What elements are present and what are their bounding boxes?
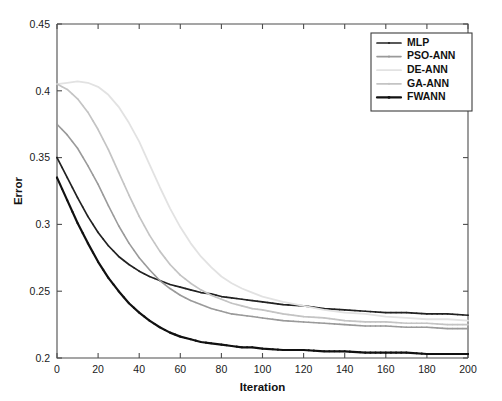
series-marker [133, 250, 135, 252]
series-marker [97, 232, 99, 234]
series-marker [221, 310, 223, 312]
series-marker [313, 350, 315, 352]
series-marker [282, 304, 284, 306]
series-marker [364, 325, 366, 327]
series-marker [56, 157, 58, 159]
series-marker [123, 260, 125, 262]
series-marker [339, 319, 341, 321]
series-marker [123, 183, 125, 185]
series-marker [113, 250, 115, 252]
series-marker [390, 352, 392, 354]
series-marker [118, 171, 120, 173]
series-marker [257, 300, 259, 302]
series-marker [277, 319, 279, 321]
series-marker [267, 348, 269, 350]
series-marker [370, 325, 372, 327]
series-marker [457, 324, 459, 326]
series-marker [128, 264, 130, 266]
series-marker [334, 323, 336, 325]
series-marker [457, 314, 459, 316]
series-marker [339, 309, 341, 311]
series-marker [144, 273, 146, 275]
series-marker [200, 341, 202, 343]
series-marker [108, 245, 110, 247]
series-marker [431, 353, 433, 355]
series-marker [344, 324, 346, 326]
series-marker [287, 304, 289, 306]
legend-label-pso-ann: PSO-ANN [407, 49, 455, 61]
series-marker [190, 282, 192, 284]
series-marker [426, 327, 428, 329]
series-marker [375, 321, 377, 323]
series-marker [56, 177, 58, 179]
series-marker [67, 134, 69, 136]
series-marker [164, 329, 166, 331]
series-marker [406, 327, 408, 329]
series-marker [174, 334, 176, 336]
series-marker [303, 321, 305, 323]
series-marker [282, 349, 284, 351]
series-marker [159, 280, 161, 282]
series-marker [308, 316, 310, 318]
series-marker [82, 156, 84, 158]
series-marker [251, 346, 253, 348]
series-marker [118, 256, 120, 258]
series-marker [462, 328, 464, 330]
series-marker [293, 321, 295, 323]
series-marker [205, 306, 207, 308]
series-marker [144, 225, 146, 227]
series-marker [349, 351, 351, 353]
series-marker [87, 165, 89, 167]
series-marker [462, 324, 464, 326]
series-marker [308, 349, 310, 351]
series-marker [267, 310, 269, 312]
series-line-de-ann [57, 81, 468, 320]
series-group [56, 81, 469, 355]
series-marker [272, 311, 274, 313]
series-marker [442, 323, 444, 325]
series-marker [210, 342, 212, 344]
series-marker [179, 336, 181, 338]
series-marker [102, 269, 104, 271]
legend-swatch-marker [388, 42, 390, 44]
legend-swatch-marker [388, 56, 390, 58]
series-marker [354, 325, 356, 327]
series-marker [323, 323, 325, 325]
series-marker [446, 353, 448, 355]
series-marker [246, 315, 248, 317]
series-marker [154, 274, 156, 276]
series-marker [138, 312, 140, 314]
x-axis-title: Iteration [240, 381, 285, 393]
series-marker [385, 352, 387, 354]
series-marker [92, 224, 94, 226]
series-marker [97, 129, 99, 131]
series-marker [251, 316, 253, 318]
series-marker [92, 174, 94, 176]
series-marker [400, 326, 402, 328]
y-tick-label: 0.25 [30, 285, 51, 297]
series-marker [226, 312, 228, 314]
series-marker [287, 320, 289, 322]
series-marker [215, 296, 217, 298]
series-marker [442, 328, 444, 330]
series-marker [241, 346, 243, 348]
series-marker [329, 323, 331, 325]
series-marker [431, 313, 433, 315]
y-tick-label: 0.2 [35, 352, 50, 364]
series-marker [344, 350, 346, 352]
legend-label-de-ann: DE-ANN [407, 63, 448, 75]
series-marker [102, 238, 104, 240]
series-marker [410, 352, 412, 354]
series-marker [71, 211, 73, 213]
series-marker [406, 322, 408, 324]
series-marker [303, 349, 305, 351]
series-marker [359, 310, 361, 312]
series-marker [112, 283, 114, 285]
series-marker [313, 322, 315, 324]
series-marker [431, 327, 433, 329]
series-marker [256, 347, 258, 349]
x-tick-label: 100 [254, 363, 272, 375]
series-marker [364, 321, 366, 323]
x-tick-label: 160 [377, 363, 395, 375]
series-marker [133, 307, 135, 309]
